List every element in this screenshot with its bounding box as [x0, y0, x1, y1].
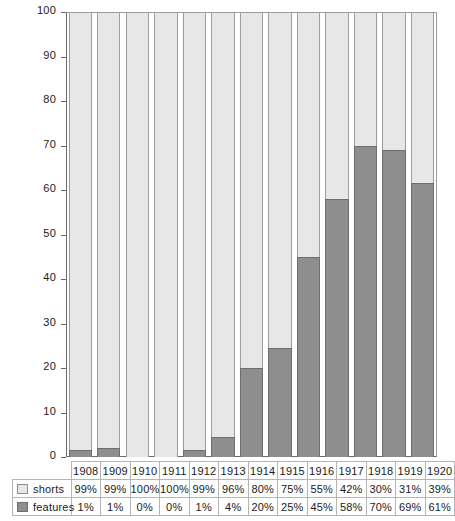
- table-cell-features: 45%: [307, 498, 337, 516]
- bar-cell-1919: [380, 12, 409, 457]
- table-cell-features: 25%: [278, 498, 308, 516]
- bar-segment-shorts[interactable]: [211, 12, 234, 437]
- features-swatch-icon: [17, 502, 28, 512]
- table-header-year: 1914: [248, 462, 278, 480]
- bar-segment-shorts[interactable]: [183, 12, 206, 450]
- stacked-bar[interactable]: [268, 12, 291, 457]
- data-table: 1908190919101911191219131914191519161917…: [12, 461, 455, 516]
- table-header-year: 1916: [307, 462, 337, 480]
- table-cell-shorts: 99%: [101, 480, 131, 498]
- table-cell-features: 0%: [130, 498, 160, 516]
- y-axis-tick-mark: [61, 457, 66, 458]
- table-row: features1%1%0%0%1%4%20%25%45%58%70%69%61…: [13, 498, 455, 516]
- bar-segment-features[interactable]: [268, 348, 291, 457]
- stacked-bar[interactable]: [411, 12, 434, 457]
- bar-cell-1918: [351, 12, 380, 457]
- y-axis-tick-label: 60: [43, 182, 56, 194]
- legend-label-features: features: [33, 501, 74, 513]
- bar-segment-shorts[interactable]: [297, 12, 320, 257]
- table-cell-features: 58%: [337, 498, 367, 516]
- table-cell-features: 61%: [425, 498, 455, 516]
- legend-label-shorts: shorts: [33, 483, 64, 495]
- table-header-year: 1912: [189, 462, 219, 480]
- bar-segment-features[interactable]: [183, 450, 206, 457]
- bar-cell-1915: [266, 12, 295, 457]
- bar-segment-features[interactable]: [69, 450, 92, 457]
- bar-segment-shorts[interactable]: [69, 12, 92, 450]
- table-cell-shorts: 39%: [425, 480, 455, 498]
- bar-segment-features[interactable]: [354, 146, 377, 458]
- table-cell-features: 0%: [160, 498, 190, 516]
- table-cell-features: 1%: [189, 498, 219, 516]
- bar-segment-shorts[interactable]: [382, 12, 405, 150]
- table-header-year: 1917: [337, 462, 367, 480]
- y-axis-tick-label: 70: [43, 138, 56, 150]
- stacked-bar[interactable]: [183, 12, 206, 457]
- stacked-bar[interactable]: [154, 12, 177, 457]
- y-axis-tick-label: 50: [43, 227, 56, 239]
- bar-segment-shorts[interactable]: [240, 12, 263, 368]
- bar-cell-1908: [66, 12, 95, 457]
- bar-cell-1909: [95, 12, 124, 457]
- y-axis: 0102030405060708090100: [0, 0, 66, 470]
- stacked-bar[interactable]: [382, 12, 405, 457]
- bar-segment-shorts[interactable]: [97, 12, 120, 448]
- table-corner-cell: [13, 462, 72, 480]
- y-axis-tick-label: 10: [43, 405, 56, 417]
- bar-segment-features[interactable]: [325, 199, 348, 457]
- bar-cell-1911: [152, 12, 181, 457]
- y-axis-tick-label: 0: [50, 449, 56, 461]
- bar-segment-shorts[interactable]: [268, 12, 291, 348]
- table-header-year: 1915: [278, 462, 308, 480]
- table-header-year: 1910: [130, 462, 160, 480]
- y-axis-tick-label: 40: [43, 271, 56, 283]
- y-axis-tick-label: 80: [43, 93, 56, 105]
- bar-segment-features[interactable]: [411, 183, 434, 457]
- stacked-bar[interactable]: [325, 12, 348, 457]
- bar-segment-shorts[interactable]: [354, 12, 377, 146]
- table-header-year: 1911: [160, 462, 190, 480]
- y-axis-tick-label: 20: [43, 360, 56, 372]
- bar-segment-shorts[interactable]: [411, 12, 434, 183]
- bar-cell-1912: [180, 12, 209, 457]
- table-cell-shorts: 100%: [130, 480, 160, 498]
- table-cell-features: 1%: [71, 498, 101, 516]
- stacked-bar[interactable]: [240, 12, 263, 457]
- shorts-swatch-icon: [17, 484, 28, 494]
- stacked-bar[interactable]: [211, 12, 234, 457]
- y-axis-tick-label: 90: [43, 49, 56, 61]
- bar-cell-1916: [294, 12, 323, 457]
- bar-segment-features[interactable]: [240, 368, 263, 457]
- bar-segment-features[interactable]: [97, 448, 120, 457]
- bar-segment-features[interactable]: [297, 257, 320, 457]
- table-cell-features: 1%: [101, 498, 131, 516]
- table-cell-shorts: 96%: [219, 480, 249, 498]
- table-cell-shorts: 55%: [307, 480, 337, 498]
- bar-segment-shorts[interactable]: [325, 12, 348, 199]
- bar-cell-1917: [323, 12, 352, 457]
- table-header-year: 1920: [425, 462, 455, 480]
- legend-row-features[interactable]: features: [13, 498, 72, 516]
- table-cell-shorts: 75%: [278, 480, 308, 498]
- bar-segment-features[interactable]: [211, 437, 234, 457]
- bar-series-container: [66, 12, 437, 457]
- bar-segment-shorts[interactable]: [126, 12, 149, 457]
- plot-area: [66, 12, 437, 457]
- table-header-year: 1918: [366, 462, 396, 480]
- bar-cell-1913: [209, 12, 238, 457]
- stacked-bar[interactable]: [297, 12, 320, 457]
- bar-cell-1920: [408, 12, 437, 457]
- table-cell-shorts: 99%: [71, 480, 101, 498]
- table-cell-shorts: 80%: [248, 480, 278, 498]
- bar-segment-features[interactable]: [382, 150, 405, 457]
- table-cell-features: 4%: [219, 498, 249, 516]
- bar-segment-shorts[interactable]: [154, 12, 177, 457]
- stacked-bar[interactable]: [69, 12, 92, 457]
- table-cell-features: 70%: [366, 498, 396, 516]
- stacked-bar[interactable]: [97, 12, 120, 457]
- stacked-bar[interactable]: [354, 12, 377, 457]
- stacked-bar[interactable]: [126, 12, 149, 457]
- table-cell-shorts: 99%: [189, 480, 219, 498]
- legend-row-shorts[interactable]: shorts: [13, 480, 72, 498]
